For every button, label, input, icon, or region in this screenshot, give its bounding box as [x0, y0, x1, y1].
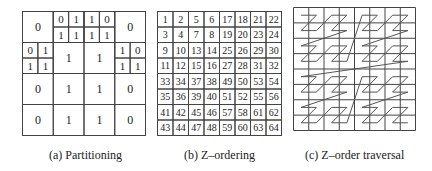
z-order-value: 32 [269, 60, 279, 71]
z-order-value: 56 [269, 91, 279, 102]
z-order-value: 62 [269, 107, 279, 118]
partition-cell-value: 0 [127, 113, 133, 127]
z-order-value: 31 [253, 60, 263, 71]
z-order-value: 12 [176, 60, 186, 71]
z-order-value: 36 [176, 91, 186, 102]
partition-subcell-value: 1 [27, 60, 33, 72]
partition-cell-value: 0 [35, 82, 41, 96]
z-order-value: 13 [191, 45, 201, 56]
z-order-value: 45 [191, 107, 201, 118]
z-order-value: 8 [209, 29, 214, 40]
partition-subcell-value: 1 [43, 44, 49, 56]
partition-subcell-value: 1 [104, 29, 110, 41]
partition-subcell-value: 0 [104, 13, 110, 25]
partitioning-grid: 0011110110011111101101100110 [22, 11, 146, 136]
z-order-value: 25 [222, 45, 232, 56]
partition-subcell-value: 0 [27, 44, 33, 56]
partition-cell-value: 1 [66, 113, 72, 127]
z-order-value: 2 [178, 14, 183, 25]
z-order-value: 15 [191, 60, 201, 71]
z-order-value: 39 [191, 91, 201, 102]
z-order-value: 5 [194, 14, 199, 25]
partition-subcell-value: 1 [74, 13, 80, 25]
z-order-value: 14 [207, 45, 217, 56]
z-order-value: 4 [178, 29, 183, 40]
z-traversal-panel [293, 7, 416, 131]
z-order-value: 40 [207, 91, 217, 102]
partition-subcell-value: 1 [120, 60, 126, 72]
z-ordering-caption: (b) Z–ordering [184, 148, 255, 163]
partition-subcell-value: 1 [43, 60, 49, 72]
partitioning-panel: 0011110110011111101101100110 [22, 11, 146, 136]
z-order-value: 58 [238, 107, 248, 118]
z-order-value: 57 [222, 107, 232, 118]
z-order-value: 55 [253, 91, 263, 102]
z-order-value: 11 [160, 60, 170, 71]
partition-subcell-value: 1 [74, 29, 80, 41]
partition-cell-value: 0 [127, 82, 133, 96]
z-order-value: 59 [222, 122, 232, 133]
z-order-value: 52 [238, 91, 248, 102]
z-order-value: 3 [163, 29, 168, 40]
z-order-value: 22 [269, 14, 279, 25]
partition-subcell-value: 0 [58, 13, 64, 25]
z-ordering-grid: 1256171821223478192023249101314252629301… [157, 11, 282, 136]
z-order-value: 51 [222, 91, 232, 102]
z-order-value: 61 [253, 107, 263, 118]
z-order-value: 28 [238, 60, 248, 71]
partition-subcell-value: 1 [120, 44, 126, 56]
z-order-value: 9 [163, 45, 168, 56]
z-order-value: 10 [176, 45, 186, 56]
partition-subcell-value: 1 [89, 29, 95, 41]
z-order-value: 27 [222, 60, 232, 71]
z-order-value: 19 [222, 29, 232, 40]
partition-cell-value: 0 [127, 20, 133, 34]
z-order-value: 43 [160, 122, 170, 133]
z-order-value: 50 [238, 76, 248, 87]
z-order-value: 63 [253, 122, 263, 133]
z-order-value: 30 [269, 45, 279, 56]
z-order-value: 47 [191, 122, 201, 133]
z-order-value: 60 [238, 122, 248, 133]
z-ordering-panel: 1256171821223478192023249101314252629301… [157, 11, 282, 136]
z-order-value: 37 [191, 76, 201, 87]
z-order-value: 38 [207, 76, 217, 87]
z-order-value: 46 [207, 107, 217, 118]
z-order-value: 26 [238, 45, 248, 56]
z-order-value: 54 [269, 76, 279, 87]
z-order-value: 7 [194, 29, 199, 40]
z-order-value: 49 [222, 76, 232, 87]
z-order-value: 48 [207, 122, 217, 133]
z-order-value: 23 [253, 29, 263, 40]
z-order-value: 20 [238, 29, 248, 40]
partition-cell-value: 1 [96, 113, 102, 127]
partition-cell-value: 0 [35, 113, 41, 127]
z-order-value: 41 [160, 107, 170, 118]
z-order-value: 29 [253, 45, 263, 56]
z-traversal-caption: (c) Z–order traversal [305, 148, 404, 163]
z-order-value: 64 [269, 122, 279, 133]
partition-cell-value: 1 [66, 82, 72, 96]
partition-subcell-value: 1 [135, 60, 141, 72]
partition-cell-value: 1 [96, 51, 102, 65]
partition-subcell-value: 1 [89, 13, 95, 25]
z-order-value: 1 [163, 14, 168, 25]
partition-subcell-value: 1 [58, 29, 64, 41]
z-order-value: 24 [269, 29, 279, 40]
partition-cell-value: 1 [96, 82, 102, 96]
z-order-value: 34 [176, 76, 186, 87]
z-traversal-grid [293, 7, 416, 131]
z-order-value: 35 [160, 91, 170, 102]
partitioning-caption: (a) Partitioning [49, 148, 122, 163]
z-order-value: 33 [160, 76, 170, 87]
z-order-value: 18 [238, 14, 248, 25]
partition-cell-value: 1 [66, 51, 72, 65]
partition-subcell-value: 0 [135, 44, 141, 56]
z-order-value: 16 [207, 60, 217, 71]
z-order-value: 21 [253, 14, 263, 25]
z-order-value: 42 [176, 107, 186, 118]
z-order-value: 17 [222, 14, 232, 25]
partition-cell-value: 0 [35, 20, 41, 34]
z-order-value: 44 [176, 122, 186, 133]
z-order-value: 53 [253, 76, 263, 87]
